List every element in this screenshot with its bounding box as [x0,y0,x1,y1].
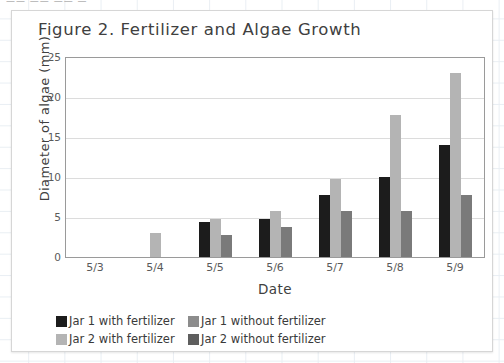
bar-group [125,57,185,257]
bar-group [245,57,305,257]
bar[interactable] [439,145,450,257]
bar-group [305,57,365,257]
bar[interactable] [341,211,352,257]
x-axis-title: Date [65,281,485,297]
bar[interactable] [461,195,472,257]
x-tick-5-8: 5/8 [365,261,425,274]
x-tick-5-4: 5/4 [125,261,185,274]
legend-row-1: Jar 1 with fertilizerJar 1 without ferti… [56,312,456,330]
legend-label: Jar 1 with fertilizer [69,314,175,328]
legend-swatch-icon [188,334,199,345]
legend-item[interactable]: Jar 1 with fertilizer [56,314,188,328]
x-tick-5-9: 5/9 [425,261,485,274]
bar-cluster-5-4 [125,57,185,257]
bar[interactable] [210,219,221,257]
clipped-header-text: —— —— —— — [6,0,88,3]
chart-legend: Jar 1 with fertilizerJar 1 without ferti… [56,312,456,348]
y-tick-15: 15 [48,131,61,143]
y-tick-0: 0 [54,251,61,263]
bar-cluster-5-9 [425,57,485,257]
bars-layer [65,57,485,257]
x-tick-5-3: 5/3 [65,261,125,274]
y-tick-10: 10 [48,171,61,183]
bar-group [65,57,125,257]
legend-item[interactable]: Jar 1 without fertilizer [188,314,325,328]
bar-cluster-5-7 [305,57,365,257]
legend-label: Jar 2 without fertilizer [201,332,325,346]
bar-group [185,57,245,257]
x-axis-tick-labels: 5/35/45/55/65/75/85/9 [65,261,485,274]
legend-row-2: Jar 2 with fertilizerJar 2 without ferti… [56,330,456,348]
x-tick-5-5: 5/5 [185,261,245,274]
bar-group [425,57,485,257]
bar-cluster-5-5 [185,57,245,257]
y-tick-20: 20 [48,91,61,103]
bar[interactable] [259,219,270,257]
y-tick-5: 5 [54,211,61,223]
x-tick-5-7: 5/7 [305,261,365,274]
legend-item[interactable]: Jar 2 with fertilizer [56,332,188,346]
legend-swatch-icon [188,316,199,327]
bar[interactable] [270,211,281,257]
bar[interactable] [379,177,390,257]
chart-card[interactable]: Figure 2. Fertilizer and Algae Growth Di… [11,10,493,352]
bar[interactable] [199,222,210,257]
bar[interactable] [401,211,412,257]
bar[interactable] [330,179,341,257]
y-tick-25: 25 [48,51,61,63]
bar[interactable] [450,73,461,257]
bar[interactable] [390,115,401,257]
legend-swatch-icon [56,334,67,345]
legend-label: Jar 1 without fertilizer [201,314,325,328]
bar[interactable] [221,235,232,257]
legend-swatch-icon [56,316,67,327]
bar-group [365,57,425,257]
bar-cluster-5-3 [65,57,125,257]
chart-title: Figure 2. Fertilizer and Algae Growth [38,20,361,39]
bar[interactable] [319,195,330,257]
legend-item[interactable]: Jar 2 without fertilizer [188,332,325,346]
bar-cluster-5-8 [365,57,425,257]
legend-label: Jar 2 with fertilizer [69,332,175,346]
bar[interactable] [150,233,161,257]
x-tick-5-6: 5/6 [245,261,305,274]
y-axis-tick-labels: 0510152025 [36,57,61,258]
bar-cluster-5-6 [245,57,305,257]
bar[interactable] [281,227,292,257]
